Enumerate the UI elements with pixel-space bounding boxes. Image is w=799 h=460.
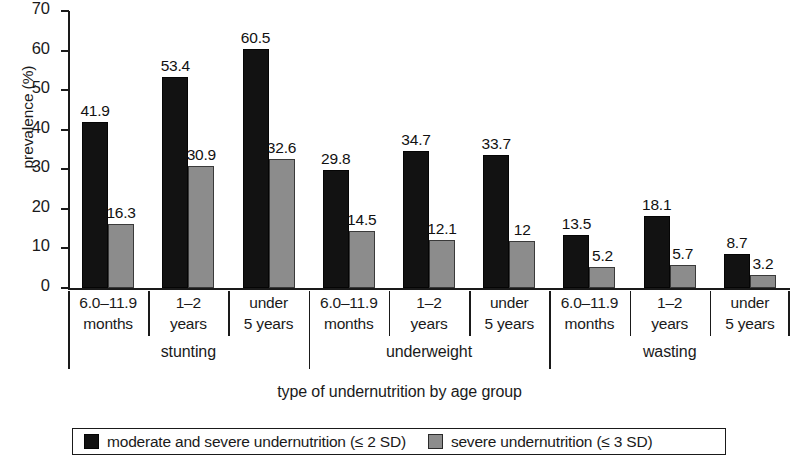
bar-severe-7	[670, 265, 696, 288]
bar-value-label: 33.7	[482, 135, 511, 153]
bar-moderate-severe-3	[323, 170, 349, 288]
bar-severe-0	[108, 224, 134, 289]
legend-item: moderate and severe undernutrition (≤ 2 …	[84, 433, 406, 451]
bar-value-label: 5.2	[592, 247, 613, 265]
bar-value-label: 41.9	[80, 102, 109, 120]
bar-value-label: 12.1	[427, 220, 456, 238]
group-label-underweight: underweight	[309, 343, 550, 361]
bar-value-label: 3.2	[752, 255, 773, 273]
y-tick-70: 70	[61, 10, 69, 12]
category-label-line: years	[148, 313, 228, 334]
category-label-line: months	[549, 313, 629, 334]
category-label-line: 5 years	[469, 313, 549, 334]
category-label-6: 6.0–11.9months	[549, 290, 629, 337]
bar-moderate-severe-8	[724, 254, 750, 288]
category-label-line: 6.0–11.9	[309, 292, 389, 313]
category-label-line: 1–2	[630, 292, 710, 313]
bar-value-label: 14.5	[347, 211, 376, 229]
y-tick-label-20: 20	[10, 197, 50, 216]
prevalence-bar-chart: prevalence (%) 010203040506070 41.916.35…	[0, 0, 799, 460]
category-divider	[630, 291, 632, 336]
category-label-line: under	[710, 292, 790, 313]
y-tick-60: 60	[61, 50, 69, 52]
category-label-8: under5 years	[710, 290, 790, 337]
bar-severe-2	[269, 159, 295, 288]
y-tick-10: 10	[61, 247, 69, 249]
group-divider	[549, 291, 551, 369]
category-label-1: 1–2years	[148, 290, 228, 337]
category-label-line: 1–2	[148, 292, 228, 313]
bar-value-label: 32.6	[267, 139, 296, 157]
category-divider	[469, 291, 471, 336]
y-tick-label-50: 50	[10, 78, 50, 97]
x-axis-title: type of undernutrition by age group	[0, 383, 799, 401]
group-label-wasting: wasting	[549, 343, 790, 361]
category-label-4: 1–2years	[389, 290, 469, 337]
category-label-line: 5 years	[710, 313, 790, 334]
category-label-5: under5 years	[469, 290, 549, 337]
plot-area: 010203040506070 41.916.353.430.960.532.6…	[68, 11, 790, 288]
y-tick-50: 50	[61, 89, 69, 91]
bar-value-label: 34.7	[401, 131, 430, 149]
y-tick-label-60: 60	[10, 39, 50, 58]
bar-moderate-severe-2	[243, 49, 269, 288]
category-label-line: 6.0–11.9	[549, 292, 629, 313]
category-label-line: 6.0–11.9	[68, 292, 148, 313]
category-axis-row: 6.0–11.9months1–2yearsunder5 years6.0–11…	[68, 290, 790, 337]
bar-moderate-severe-7	[644, 216, 670, 288]
legend-label: moderate and severe undernutrition (≤ 2 …	[107, 433, 406, 451]
category-label-line: months	[309, 313, 389, 334]
y-tick-0: 0	[61, 287, 69, 289]
bar-severe-1	[188, 166, 214, 288]
bar-value-label: 13.5	[562, 215, 591, 233]
bar-value-label: 60.5	[241, 29, 270, 47]
bar-moderate-severe-0	[82, 122, 108, 288]
legend-item: severe undernutrition (≤ 3 SD)	[428, 433, 653, 451]
category-label-line: under	[469, 292, 549, 313]
bar-value-label: 30.9	[187, 146, 216, 164]
category-label-3: 6.0–11.9months	[309, 290, 389, 337]
y-tick-label-40: 40	[10, 118, 50, 137]
category-label-7: 1–2years	[630, 290, 710, 337]
category-label-line: 5 years	[228, 313, 308, 334]
category-label-line: 1–2	[389, 292, 469, 313]
category-label-2: under5 years	[228, 290, 308, 337]
group-edge-divider	[68, 291, 70, 369]
category-edge-divider	[788, 291, 790, 336]
bar-moderate-severe-5	[483, 155, 509, 288]
bar-value-label: 5.7	[672, 245, 693, 263]
bar-value-label: 16.3	[106, 204, 135, 222]
bar-severe-8	[750, 275, 776, 288]
category-divider	[228, 291, 230, 336]
category-label-line: years	[630, 313, 710, 334]
bar-value-label: 12	[514, 221, 531, 239]
bar-value-label: 53.4	[161, 57, 190, 75]
group-divider	[309, 291, 311, 369]
legend-label: severe undernutrition (≤ 3 SD)	[451, 433, 653, 451]
category-label-line: under	[228, 292, 308, 313]
y-tick-40: 40	[61, 129, 69, 131]
y-tick-label-70: 70	[10, 0, 50, 18]
category-label-line: months	[68, 313, 148, 334]
y-tick-label-30: 30	[10, 157, 50, 176]
bar-severe-5	[509, 241, 535, 288]
y-tick-label-0: 0	[10, 276, 50, 295]
y-tick-20: 20	[61, 208, 69, 210]
group-axis-row: stuntingunderweightwasting	[68, 337, 790, 369]
bar-value-label: 8.7	[726, 234, 747, 252]
chart-legend: moderate and severe undernutrition (≤ 2 …	[72, 428, 726, 455]
y-tick-label-10: 10	[10, 236, 50, 255]
category-label-line: years	[389, 313, 469, 334]
legend-swatch-dark-icon	[84, 434, 99, 449]
bar-severe-4	[429, 240, 455, 288]
bar-value-label: 29.8	[321, 150, 350, 168]
bar-moderate-severe-6	[563, 235, 589, 288]
bar-severe-3	[349, 231, 375, 288]
group-label-stunting: stunting	[68, 343, 309, 361]
bar-severe-6	[589, 267, 615, 288]
legend-swatch-light-icon	[428, 434, 443, 449]
y-tick-30: 30	[61, 168, 69, 170]
category-divider	[389, 291, 391, 336]
bar-moderate-severe-4	[403, 151, 429, 288]
category-divider	[710, 291, 712, 336]
